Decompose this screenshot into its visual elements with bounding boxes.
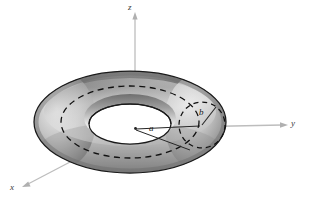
z-axis-arrowhead [132,12,137,20]
z-axis-label: z [128,3,132,12]
torus-figure: z y x a b [0,0,309,204]
y-axis-label: y [291,119,295,128]
torus-diagram-svg [0,0,309,204]
minor-radius-label: b [199,108,204,117]
y-axis-arrowhead [280,122,288,128]
torus-body [28,71,232,178]
x-axis-arrowhead [22,181,31,187]
origin-point [134,127,137,130]
major-radius-label: a [149,124,154,133]
x-axis-label: x [10,183,14,192]
